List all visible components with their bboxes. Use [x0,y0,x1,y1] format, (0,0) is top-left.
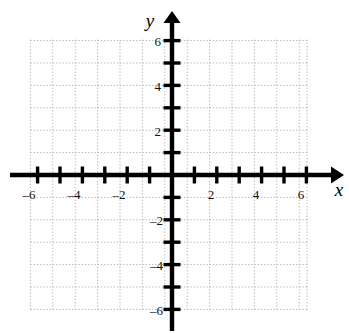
y-axis-label: y [144,10,155,31]
x-tick-label: 6 [298,187,305,202]
y-tick-label: 2 [155,124,162,139]
coordinate-plane-figure: –6 –4 –2 2 4 6 6 4 2 –2 –4 –6 y x [0,0,349,334]
y-tick-label: –2 [149,213,163,228]
x-tick-label: –2 [112,187,126,202]
x-tick-label: 2 [208,187,215,202]
y-tick-label: –6 [149,303,164,318]
y-axis [164,11,181,331]
x-tick-label: 4 [253,187,260,202]
x-axis-label: x [334,179,344,200]
y-tick-label: 6 [155,34,162,49]
y-tick-label: 4 [155,79,162,94]
y-tick-label: –4 [149,258,164,273]
x-tick-label: –6 [22,187,37,202]
x-tick-labels: –6 –4 –2 2 4 6 [22,187,305,202]
y-axis-arrowhead-icon [164,11,181,23]
coordinate-plane-svg: –6 –4 –2 2 4 6 6 4 2 –2 –4 –6 y x [0,0,349,334]
x-tick-label: –4 [67,187,82,202]
